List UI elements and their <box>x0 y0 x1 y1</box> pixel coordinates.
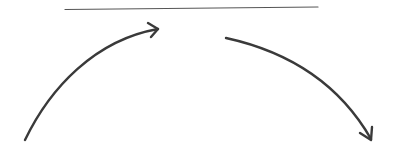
top-horizontal-line <box>65 7 318 10</box>
left-arrow-shaft <box>25 29 158 140</box>
left-curved-arrow <box>25 23 158 140</box>
right-arrow-shaft <box>226 38 371 139</box>
right-curved-arrow <box>226 38 372 140</box>
diagram-canvas <box>0 0 396 164</box>
